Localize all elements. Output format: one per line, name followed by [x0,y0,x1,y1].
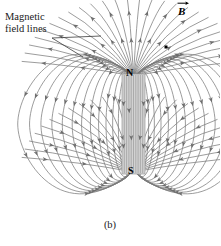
leader-line [52,38,83,57]
field-arrowhead [110,136,115,142]
field-arrowhead [166,141,172,146]
magnetic-field-diagram [0,0,220,246]
vector-arrow-icon [177,0,189,6]
field-line [136,54,221,194]
b-vector-label: B [178,5,185,18]
field-line [30,56,132,193]
field-line [41,57,132,190]
b-vector-text: B [178,5,185,17]
figure-caption: (b) [0,219,220,231]
field-lines-label: Magnetic field lines [5,11,47,36]
field-arrowhead [73,119,79,123]
field-arrowhead [162,14,167,19]
field-lines-label-line1: Magnetic [5,11,47,23]
field-lines-label-line2: field lines [5,23,47,35]
field-arrowhead [163,110,168,115]
field-line [136,56,221,193]
field-arrowhead [108,173,113,178]
field-arrowhead [180,20,185,25]
north-pole-label: N [126,67,133,79]
field-line [18,54,132,194]
south-pole-label: S [128,165,134,177]
field-point-marker [165,46,168,49]
field-arrowhead [111,40,116,46]
field-arrowhead [73,24,79,28]
field-line [134,45,221,76]
field-arrowhead [154,173,159,178]
